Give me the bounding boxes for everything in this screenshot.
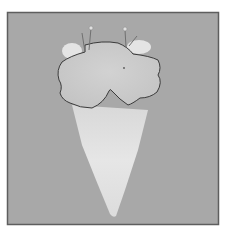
specimen-mark — [123, 67, 125, 69]
specimen-photo — [0, 0, 226, 231]
